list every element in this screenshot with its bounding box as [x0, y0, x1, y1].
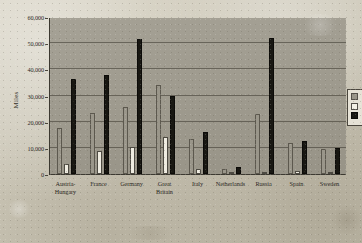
- chart-legend: [347, 89, 362, 126]
- legend-item: [351, 103, 362, 110]
- y-axis-tickmark: [45, 123, 48, 124]
- y-axis-tick-label: 50,000: [28, 40, 44, 47]
- bar: [57, 128, 62, 174]
- bar: [236, 167, 241, 174]
- bar: [262, 172, 267, 174]
- legend-item: [351, 112, 362, 119]
- bar: [222, 169, 227, 174]
- bar: [335, 148, 340, 174]
- legend-item: [351, 93, 362, 100]
- bar: [295, 171, 300, 174]
- y-axis-tickmark: [45, 70, 48, 71]
- bar: [269, 38, 274, 174]
- bar: [288, 143, 293, 174]
- y-axis-tick-label: 30,000: [28, 93, 44, 100]
- bar-chart-figure: Miles 010,00020,00030,00040,00050,00060,…: [0, 0, 362, 243]
- x-axis-tick-label: Sweden: [308, 180, 351, 188]
- y-axis-tick-labels: 010,00020,00030,00040,00050,00060,000: [12, 0, 48, 243]
- y-axis-tick-label: 60,000: [28, 14, 44, 21]
- y-axis-tickmark: [45, 18, 48, 19]
- y-axis-tickmark: [45, 149, 48, 150]
- y-axis-tickmark: [45, 97, 48, 98]
- y-axis-tick-label: 40,000: [28, 66, 44, 73]
- bar: [163, 137, 168, 174]
- bar: [189, 139, 194, 174]
- legend-swatch: [351, 103, 358, 110]
- bar: [104, 75, 109, 174]
- legend-swatch: [351, 93, 358, 100]
- bar: [130, 147, 135, 174]
- y-axis-tick-label: 20,000: [28, 119, 44, 126]
- x-axis-tick-labels: Austria-HungaryFranceGermanyGreatBritain…: [49, 178, 346, 208]
- y-axis-tickmark: [45, 175, 48, 176]
- bar: [64, 164, 69, 174]
- bar: [170, 96, 175, 175]
- gridline: [50, 68, 346, 69]
- bar: [123, 107, 128, 174]
- y-axis-tickmark: [45, 44, 48, 45]
- bar: [203, 132, 208, 174]
- bar: [196, 169, 201, 174]
- bar: [255, 114, 260, 174]
- bar: [302, 141, 307, 174]
- bar: [90, 113, 95, 174]
- y-axis-tick-label: 10,000: [28, 145, 44, 152]
- bar: [156, 85, 161, 174]
- gridline: [50, 95, 346, 96]
- bar: [321, 149, 326, 174]
- legend-swatch: [351, 112, 358, 119]
- bar: [137, 39, 142, 174]
- bar: [328, 172, 333, 174]
- plot-area: [49, 18, 346, 175]
- bar: [71, 79, 76, 175]
- y-axis-tick-label: 0: [41, 171, 44, 178]
- bar: [97, 151, 102, 174]
- gridline: [50, 42, 346, 43]
- bar: [229, 172, 234, 174]
